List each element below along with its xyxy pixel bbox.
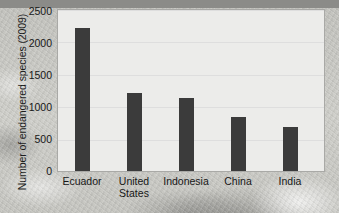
plot-area xyxy=(57,9,325,172)
y-tick-label-0: 0 xyxy=(8,165,52,177)
y-tick-label-2000: 2000 xyxy=(8,37,52,49)
bar-india xyxy=(283,127,298,171)
y-tick-label-2500: 2500 xyxy=(8,5,52,17)
y-tick-label-500: 500 xyxy=(8,133,52,145)
bar-china xyxy=(231,117,246,171)
bar-chart-screenshot: Number of endangered species (2009) 2500… xyxy=(0,0,339,213)
bar-united-states xyxy=(127,93,142,171)
bar-series xyxy=(58,10,324,171)
bar-indonesia xyxy=(179,98,194,171)
bar-ecuador xyxy=(75,28,90,171)
x-tick-label-india: India xyxy=(259,175,321,187)
y-tick-label-1000: 1000 xyxy=(8,101,52,113)
y-tick-label-1500: 1500 xyxy=(8,69,52,81)
